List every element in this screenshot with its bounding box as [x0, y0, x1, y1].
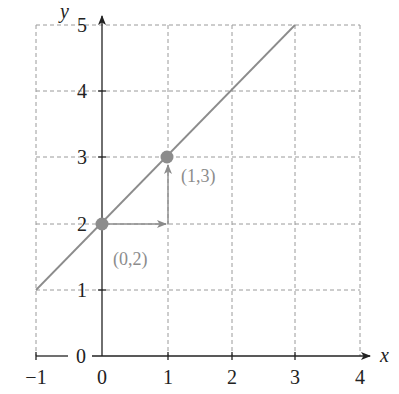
axes [36, 16, 370, 360]
grid [36, 25, 360, 356]
svg-text:2: 2 [227, 366, 237, 388]
svg-text:−1: −1 [25, 366, 46, 388]
x-tick-labels: −1 0 1 2 3 4 [25, 366, 365, 388]
svg-text:4: 4 [77, 80, 87, 102]
x-axis-label: x [379, 344, 389, 366]
y-axis-label: y [58, 0, 69, 23]
svg-text:4: 4 [355, 366, 365, 388]
point-0-2 [96, 218, 109, 231]
point-1-3 [161, 151, 174, 164]
svg-text:0: 0 [97, 366, 107, 388]
svg-text:5: 5 [77, 14, 87, 36]
svg-text:1: 1 [77, 279, 87, 301]
y-tick-labels: 0 1 2 3 4 5 [76, 14, 87, 367]
point-label-0-2: (0,2) [113, 249, 148, 270]
svg-text:3: 3 [77, 146, 87, 168]
svg-text:1: 1 [163, 366, 173, 388]
svg-text:3: 3 [290, 366, 300, 388]
svg-text:2: 2 [77, 213, 87, 235]
svg-text:0: 0 [76, 345, 86, 367]
point-label-1-3: (1,3) [181, 166, 216, 187]
coordinate-plane-chart: (0,2) (1,3) −1 0 1 2 3 4 0 1 2 3 4 5 x y [0, 0, 399, 394]
